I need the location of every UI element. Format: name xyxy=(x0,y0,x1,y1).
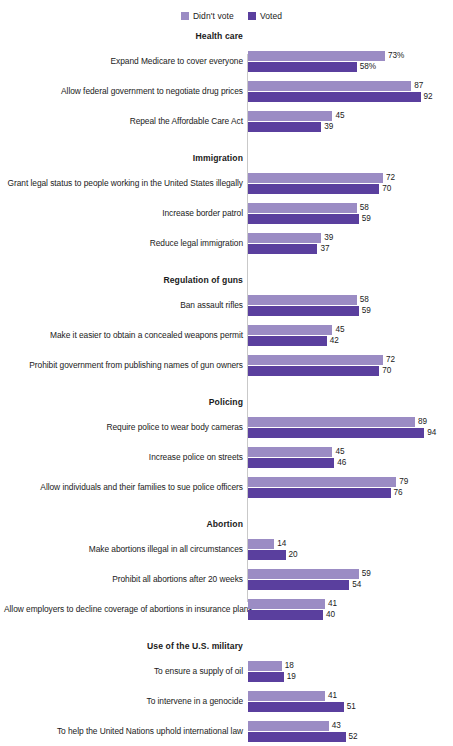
chart-row: Expand Medicare to cover everyone73%58% xyxy=(0,46,453,76)
row-bars: 7270 xyxy=(248,173,395,195)
row-label: Prohibit government from publishing name… xyxy=(4,350,247,380)
bar-didnt-vote xyxy=(248,51,385,61)
bar-didnt-vote xyxy=(248,447,332,457)
row-bars: 5954 xyxy=(248,569,371,591)
bar-didnt-vote xyxy=(248,569,359,579)
row-bars: 1420 xyxy=(248,539,298,561)
row-label: To help the United Nations uphold intern… xyxy=(4,716,247,746)
bar-wrapper: 58 xyxy=(248,203,371,213)
section-header: Regulation of guns xyxy=(0,270,243,290)
bar-wrapper: 70 xyxy=(248,184,395,194)
bar-wrapper: 43 xyxy=(248,721,358,731)
bar-value-didnt-vote: 41 xyxy=(328,599,337,609)
row-label: Require police to wear body cameras xyxy=(4,412,247,442)
bar-wrapper: 89 xyxy=(248,417,436,427)
legend-swatch-didnt-vote-icon xyxy=(181,12,189,20)
row-label: Increase border patrol xyxy=(4,198,247,228)
bar-voted xyxy=(248,428,424,438)
chart-row: Grant legal status to people working in … xyxy=(0,168,453,198)
bar-wrapper: 46 xyxy=(248,458,346,468)
bar-voted xyxy=(248,580,349,590)
chart-row: To intervene in a genocide4151 xyxy=(0,686,453,716)
bar-didnt-vote xyxy=(248,203,357,213)
bar-wrapper: 59 xyxy=(248,569,371,579)
chart-row: Increase police on streets4546 xyxy=(0,442,453,472)
section-spacer xyxy=(0,136,453,148)
bar-didnt-vote xyxy=(248,173,383,183)
bar-value-didnt-vote: 58 xyxy=(360,295,369,305)
bar-value-voted: 37 xyxy=(320,244,329,254)
row-label: Allow individuals and their families to … xyxy=(4,472,247,502)
row-label: Allow employers to decline coverage of a… xyxy=(4,594,247,624)
bar-value-voted: 19 xyxy=(287,672,296,682)
chart-row: Reduce legal immigration3937 xyxy=(0,228,453,258)
bar-value-didnt-vote: 59 xyxy=(362,569,371,579)
bar-didnt-vote xyxy=(248,325,332,335)
bar-value-voted: 40 xyxy=(326,610,335,620)
bar-value-didnt-vote: 18 xyxy=(285,661,294,671)
bar-value-voted: 46 xyxy=(337,458,346,468)
row-bars: 7976 xyxy=(248,477,408,499)
bar-voted xyxy=(248,92,421,102)
row-bars: 1819 xyxy=(248,661,296,683)
bar-didnt-vote xyxy=(248,417,415,427)
bar-wrapper: 54 xyxy=(248,580,371,590)
chart-row: Allow federal government to negotiate dr… xyxy=(0,76,453,106)
chart-row: Make it easier to obtain a concealed wea… xyxy=(0,320,453,350)
row-bars: 4542 xyxy=(248,325,344,347)
bar-didnt-vote xyxy=(248,81,411,91)
bar-wrapper: 76 xyxy=(248,488,408,498)
row-bars: 3937 xyxy=(248,233,333,255)
row-label: Repeal the Affordable Care Act xyxy=(4,106,247,136)
bar-didnt-vote xyxy=(248,295,357,305)
bar-wrapper: 58% xyxy=(248,62,404,72)
bar-voted xyxy=(248,458,334,468)
row-bars: 4140 xyxy=(248,599,337,621)
row-bars: 4151 xyxy=(248,691,356,713)
row-label: Make abortions illegal in all circumstan… xyxy=(4,534,247,564)
bar-voted xyxy=(248,184,379,194)
chart-row: Prohibit all abortions after 20 weeks595… xyxy=(0,564,453,594)
legend-item-voted: Voted xyxy=(248,11,282,21)
row-bars: 4539 xyxy=(248,111,344,133)
chart-section: ImmigrationGrant legal status to people … xyxy=(0,148,453,270)
bar-wrapper: 92 xyxy=(248,92,433,102)
bar-value-didnt-vote: 89 xyxy=(418,417,427,427)
row-bars: 5859 xyxy=(248,295,371,317)
bar-voted xyxy=(248,610,323,620)
bar-voted xyxy=(248,244,317,254)
bar-wrapper: 59 xyxy=(248,306,371,316)
chart-row: Repeal the Affordable Care Act4539 xyxy=(0,106,453,136)
bar-value-voted: 39 xyxy=(324,122,333,132)
legend-label-voted: Voted xyxy=(260,11,282,21)
row-label: To intervene in a genocide xyxy=(4,686,247,716)
row-bars: 8792 xyxy=(248,81,433,103)
bar-wrapper: 94 xyxy=(248,428,436,438)
bar-value-didnt-vote: 87 xyxy=(414,81,423,91)
legend-swatch-voted-icon xyxy=(248,12,256,20)
chart-row: Ban assault rifles5859 xyxy=(0,290,453,320)
row-label: Expand Medicare to cover everyone xyxy=(4,46,247,76)
bar-didnt-vote xyxy=(248,355,383,365)
bar-voted xyxy=(248,62,357,72)
bar-didnt-vote xyxy=(248,691,325,701)
bar-didnt-vote xyxy=(248,539,274,549)
bar-value-didnt-vote: 72 xyxy=(386,173,395,183)
bar-value-voted: 76 xyxy=(394,488,403,498)
section-spacer xyxy=(0,380,453,392)
bar-value-didnt-vote: 43 xyxy=(332,721,341,731)
bar-wrapper: 19 xyxy=(248,672,296,682)
chart-row: Prohibit government from publishing name… xyxy=(0,350,453,380)
bar-voted xyxy=(248,336,327,346)
chart-row: Allow employers to decline coverage of a… xyxy=(0,594,453,624)
bar-value-voted: 94 xyxy=(427,428,436,438)
bar-value-voted: 58% xyxy=(360,62,376,72)
bar-value-didnt-vote: 73% xyxy=(388,51,404,61)
row-bars: 5859 xyxy=(248,203,371,225)
bar-wrapper: 73% xyxy=(248,51,404,61)
row-label: Increase police on streets xyxy=(4,442,247,472)
bar-value-voted: 59 xyxy=(362,306,371,316)
bar-voted xyxy=(248,122,321,132)
chart-legend: Didn't vote Voted xyxy=(0,0,453,26)
bar-wrapper: 20 xyxy=(248,550,298,560)
